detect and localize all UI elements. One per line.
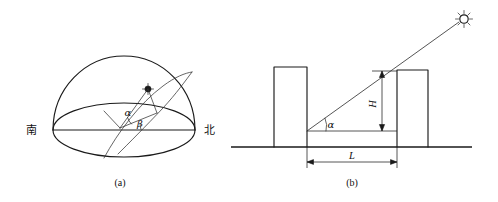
sun-icon-rays	[456, 11, 473, 28]
north-label: 北	[204, 124, 215, 137]
right-building	[397, 70, 428, 147]
alpha-label-a: α	[125, 107, 132, 118]
panel-b-caption: (b)	[346, 177, 358, 189]
south-label: 南	[26, 124, 37, 137]
beta-label-a: β	[136, 118, 143, 129]
height-dim-arrow-top	[379, 71, 384, 78]
length-label: L	[348, 150, 355, 161]
figure-svg: α β 南 北 (a)	[0, 0, 498, 202]
figure-root: α β 南 北 (a)	[0, 0, 498, 202]
hemisphere-dome-arc	[53, 56, 195, 130]
panel-a-caption: (a)	[114, 177, 125, 189]
height-label: H	[367, 99, 378, 109]
panel-a-group: α β 南 北 (a)	[26, 56, 215, 189]
left-building	[274, 67, 307, 147]
length-dim-arrow-left	[307, 160, 314, 165]
height-dim-arrow-bottom	[379, 125, 384, 132]
length-dim-arrow-right	[391, 160, 398, 165]
sun-icon	[460, 15, 468, 23]
alpha-angle-arc-b	[325, 118, 327, 131]
panel-b-group: α H L (b)	[231, 11, 473, 190]
azimuth-reference-line	[104, 111, 120, 128]
sun-vertical-drop-line	[148, 89, 157, 113]
alpha-label-b: α	[328, 119, 335, 130]
